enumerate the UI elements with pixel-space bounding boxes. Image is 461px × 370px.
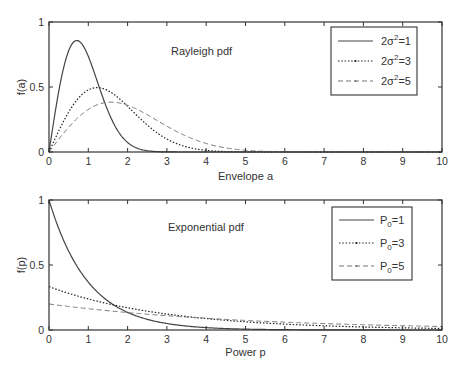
xtick-label: 4 bbox=[203, 155, 209, 167]
xtick-label: 7 bbox=[321, 155, 327, 167]
xtick-label: 5 bbox=[243, 333, 249, 345]
rayleigh-xlabel: Envelope a bbox=[218, 170, 274, 182]
exponential-ytick-1: 1 bbox=[38, 194, 44, 206]
exponential-title: Exponential pdf bbox=[168, 221, 245, 233]
xtick-label: 3 bbox=[164, 155, 170, 167]
xtick-label: 6 bbox=[282, 155, 288, 167]
rayleigh-ytick-0: 0 bbox=[38, 146, 44, 158]
exponential-ylabel: f(p) bbox=[15, 257, 27, 274]
xtick-label: 1 bbox=[85, 333, 91, 345]
curve-dashed bbox=[49, 304, 442, 326]
xtick-label: 2 bbox=[125, 333, 131, 345]
exponential-legend: P0=1 P0=3 P0=5 bbox=[332, 207, 412, 280]
curve-dotted bbox=[49, 88, 442, 152]
rayleigh-xtick-labels: 012345678910 bbox=[46, 155, 448, 167]
xtick-label: 9 bbox=[400, 333, 406, 345]
xtick-label: 10 bbox=[436, 155, 448, 167]
rayleigh-plot: 0 0.5 1 012345678910 Envelope a f(a) Ray… bbox=[15, 16, 448, 183]
legend-marker-dot bbox=[356, 265, 358, 267]
legend-marker-dot bbox=[354, 60, 356, 62]
legend-marker-dot bbox=[355, 242, 357, 244]
rayleigh-ytick-0.5: 0.5 bbox=[29, 81, 44, 93]
xtick-label: 6 bbox=[282, 333, 288, 345]
xtick-label: 10 bbox=[436, 333, 448, 345]
exponential-ytick-0.5: 0.5 bbox=[29, 259, 44, 271]
rayleigh-title: Rayleigh pdf bbox=[171, 45, 233, 57]
xtick-label: 8 bbox=[360, 333, 366, 345]
xtick-label: 7 bbox=[321, 333, 327, 345]
xtick-label: 0 bbox=[46, 155, 52, 167]
exponential-plot: 0 0.5 1 012345678910 Power p f(p) Expone… bbox=[15, 194, 448, 359]
rayleigh-ylabel: f(a) bbox=[15, 79, 27, 96]
xtick-label: 3 bbox=[164, 333, 170, 345]
xtick-label: 5 bbox=[243, 155, 249, 167]
figure: 0 0.5 1 012345678910 Envelope a f(a) Ray… bbox=[0, 0, 461, 370]
legend-marker-dot bbox=[355, 80, 357, 82]
curve-dotted bbox=[49, 287, 442, 329]
xtick-label: 8 bbox=[360, 155, 366, 167]
xtick-label: 0 bbox=[46, 333, 52, 345]
xtick-label: 2 bbox=[125, 155, 131, 167]
xtick-label: 4 bbox=[203, 333, 209, 345]
xtick-label: 1 bbox=[85, 155, 91, 167]
rayleigh-legend: 2σ2=1 2σ2=3 2σ2=5 bbox=[331, 27, 417, 95]
exponential-ytick-0: 0 bbox=[38, 324, 44, 336]
xtick-label: 9 bbox=[400, 155, 406, 167]
exponential-xtick-labels: 012345678910 bbox=[46, 333, 448, 345]
rayleigh-ytick-1: 1 bbox=[38, 16, 44, 28]
exponential-xlabel: Power p bbox=[225, 346, 265, 358]
